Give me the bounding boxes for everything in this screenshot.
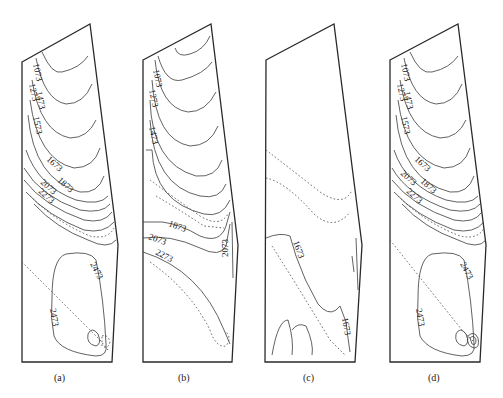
dashed-isotherm bbox=[150, 262, 229, 346]
contour-label: 1573 bbox=[399, 115, 413, 135]
contour-label: 1673 bbox=[340, 317, 353, 337]
contour-label: 1073 bbox=[399, 62, 413, 82]
contour-label: 1873 bbox=[167, 218, 188, 234]
panel-caption: (c) bbox=[303, 372, 314, 384]
isotherm bbox=[158, 56, 212, 81]
panel-caption: (d) bbox=[428, 372, 440, 384]
dashed-isotherm bbox=[272, 246, 346, 356]
panel-a: 1073 1273 1473 1573 1673 1873 2073 2273 … bbox=[22, 24, 118, 384]
isotherm bbox=[398, 100, 470, 168]
dashed-isotherm bbox=[266, 178, 350, 223]
isotherm bbox=[42, 52, 88, 72]
contour-label: 2073 bbox=[220, 239, 230, 258]
contour-label: 1673 bbox=[45, 154, 65, 174]
panel-d: 1073 1273 1473 1573 1673 2073 1873 2273 … bbox=[390, 24, 486, 384]
dashed-isotherm bbox=[156, 196, 224, 228]
contour-label: 2273 bbox=[405, 186, 425, 206]
isotherm bbox=[292, 325, 312, 355]
contour-label: 1273 bbox=[147, 88, 161, 108]
panel-caption: (a) bbox=[54, 372, 65, 384]
contour-label: 1573 bbox=[31, 115, 45, 135]
contour-label: 2073 bbox=[147, 231, 168, 247]
isotherm bbox=[272, 320, 293, 355]
isotherm bbox=[175, 36, 210, 55]
contour-label: 1073 bbox=[31, 62, 45, 82]
hot-spot bbox=[456, 330, 468, 346]
contour-label: 1473 bbox=[147, 125, 161, 145]
contour-label: 1873 bbox=[419, 176, 439, 196]
panel-caption: (b) bbox=[178, 372, 190, 384]
contour-figure: 1073 1273 1473 1573 1673 1873 2073 2273 … bbox=[0, 0, 503, 398]
isotherm bbox=[232, 222, 233, 278]
contour-label: 2473 bbox=[88, 260, 106, 281]
dashed-isotherm bbox=[390, 240, 474, 342]
contour-label: 2473 bbox=[458, 260, 476, 281]
isotherm bbox=[146, 150, 230, 215]
contour-label: 2473 bbox=[414, 308, 427, 328]
isotherm bbox=[30, 100, 100, 168]
contour-label: 1473 bbox=[34, 90, 48, 110]
isotherm-1673 bbox=[266, 234, 350, 352]
contour-label: 1673 bbox=[291, 239, 307, 260]
panel-b: 1073 1273 1473 1873 2073 2273 2073 (b) bbox=[143, 24, 238, 384]
dashed-isotherm bbox=[266, 150, 352, 200]
dashed-isotherm bbox=[30, 196, 114, 237]
isotherm bbox=[143, 252, 230, 344]
contour-label: 2273 bbox=[154, 247, 175, 265]
contour-label: 1473 bbox=[402, 90, 416, 110]
isotherm bbox=[356, 238, 358, 290]
isotherm bbox=[352, 256, 354, 272]
dashed-isotherm bbox=[398, 196, 484, 237]
isotherm bbox=[394, 192, 484, 231]
contour-label: 2473 bbox=[48, 308, 61, 328]
isotherm bbox=[410, 52, 458, 72]
panel-c-outline bbox=[265, 24, 362, 362]
contour-label: 1073 bbox=[151, 68, 165, 88]
panel-c: 1673 1673 (c) bbox=[265, 24, 362, 384]
